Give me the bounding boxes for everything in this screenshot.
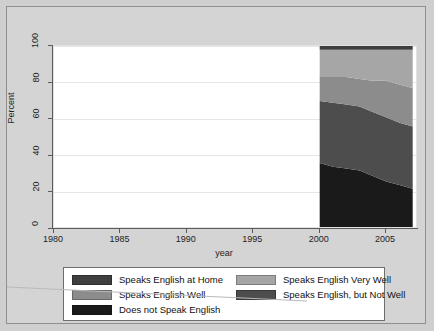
y-tick-label: 60 <box>25 109 47 118</box>
y-tick-label: 0 <box>25 219 47 228</box>
y-tick <box>48 45 52 46</box>
x-tick <box>119 229 120 233</box>
legend-swatch <box>72 275 112 285</box>
x-tick-label: 1990 <box>166 234 206 244</box>
x-tick <box>53 229 54 233</box>
y-tick-label: 100 <box>25 36 47 45</box>
legend-label: Speaks English at Home <box>119 274 223 285</box>
y-tick <box>48 228 52 229</box>
x-tick-label: 1985 <box>99 234 139 244</box>
y-tick-label: 80 <box>25 73 47 82</box>
chart-legend: Speaks English at HomeSpeaks English Ver… <box>63 267 385 321</box>
legend-item: Speaks English Well <box>72 288 205 301</box>
legend-item: Speaks English at Home <box>72 273 223 286</box>
x-tick <box>385 229 386 233</box>
y-tick <box>48 82 52 83</box>
legend-swatch <box>72 290 112 300</box>
y-axis-line <box>52 45 53 229</box>
stacked-area-series <box>54 46 417 228</box>
x-axis-title: year <box>7 248 434 258</box>
area-band <box>320 46 413 50</box>
chart-panel: 020406080100 198019851990199520002005 Pe… <box>6 6 426 324</box>
chart-screenshot: 020406080100 198019851990199520002005 Pe… <box>0 0 434 331</box>
x-tick-label: 1980 <box>33 234 73 244</box>
y-axis-title: Percent <box>6 78 16 138</box>
x-tick <box>186 229 187 233</box>
x-tick-label: 1995 <box>232 234 272 244</box>
y-tick <box>48 118 52 119</box>
x-tick-label: 2000 <box>299 234 339 244</box>
x-tick <box>252 229 253 233</box>
x-tick <box>319 229 320 233</box>
plot-background <box>53 45 417 228</box>
x-axis-line <box>52 228 418 229</box>
legend-label: Speaks English Very Well <box>283 274 391 285</box>
legend-swatch <box>236 290 276 300</box>
legend-item: Does not Speak English <box>72 303 220 316</box>
x-tick-label: 2005 <box>365 234 405 244</box>
y-tick <box>48 191 52 192</box>
legend-item: Speaks English Very Well <box>236 273 391 286</box>
y-tick-label: 20 <box>25 182 47 191</box>
legend-label: Does not Speak English <box>119 304 220 315</box>
y-tick-label: 40 <box>25 146 47 155</box>
plot-area <box>53 45 417 228</box>
legend-label: Speaks English, but Not Well <box>283 289 405 300</box>
legend-swatch <box>236 275 276 285</box>
y-tick <box>48 155 52 156</box>
legend-item: Speaks English, but Not Well <box>236 288 405 301</box>
legend-label: Speaks English Well <box>119 289 205 300</box>
legend-swatch <box>72 305 112 315</box>
